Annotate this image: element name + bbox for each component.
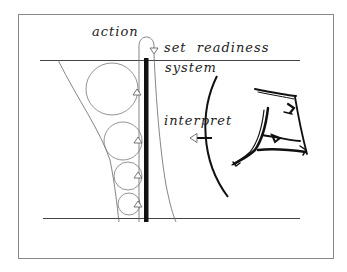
system-bar	[144, 58, 149, 222]
perception-arc	[205, 76, 228, 197]
interpret-arrow-icon	[190, 134, 197, 143]
up-arrow-icon	[134, 172, 142, 178]
sketch-object	[232, 89, 307, 166]
action-label: action	[92, 25, 139, 38]
system-label: system	[165, 61, 217, 74]
set-readiness-label: set readiness	[164, 41, 269, 54]
left-funnel-curve	[58, 60, 119, 222]
up-arrow-icon	[134, 137, 142, 143]
interpret-label: interpret	[164, 114, 232, 127]
set-readiness-arrow-icon	[150, 48, 158, 54]
up-arrow-icon	[133, 89, 141, 95]
up-arrow-icon	[134, 201, 142, 207]
loop-circle-large	[86, 63, 138, 115]
right-system-curve	[154, 54, 176, 222]
